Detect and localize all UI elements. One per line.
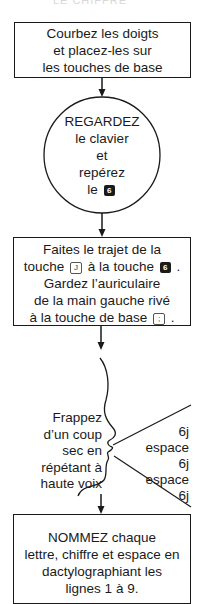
step-text-line: d’un coup bbox=[20, 427, 102, 444]
step-text-fragment: le bbox=[87, 182, 98, 197]
step-text-line: Faites le trajet de la bbox=[14, 241, 190, 258]
step-text-fragment: touche bbox=[24, 259, 65, 274]
step-text-line: Gardez l’auriculaire bbox=[14, 275, 190, 292]
step-text-line: dactylographiant les bbox=[14, 563, 190, 580]
step-text-line: touche J à la touche 6 . bbox=[14, 258, 190, 275]
step-text-line: REGARDEZ bbox=[44, 113, 160, 130]
step-text-line: les touches de base bbox=[15, 59, 190, 76]
step-text-fragment: . bbox=[171, 310, 175, 325]
step-text-line: et bbox=[44, 147, 160, 164]
step-text-line: lignes 1 à 9. bbox=[14, 580, 190, 597]
sequence-item: espace bbox=[120, 440, 189, 456]
sequence-item: 6j bbox=[120, 456, 189, 472]
key-semicolon-icon: ; bbox=[153, 313, 165, 325]
key-6-icon: 6 bbox=[160, 262, 171, 273]
spoken-sequence: 6j espace 6j espace 6j bbox=[120, 424, 189, 504]
key-j-icon: J bbox=[70, 262, 82, 274]
sequence-item: 6j bbox=[120, 488, 189, 504]
step-text-fragment: . bbox=[176, 259, 180, 274]
step-text-line: à la touche de base ; . bbox=[14, 309, 190, 326]
step-text-line: repérez bbox=[44, 164, 160, 181]
step-text-line: et placez-les sur bbox=[15, 42, 190, 59]
sequence-item: 6j bbox=[120, 424, 189, 440]
step-text-line: NOMMEZ chaque bbox=[14, 529, 190, 546]
step-text-fragment: à la touche de base bbox=[29, 310, 147, 325]
step-text-line: Frappez bbox=[20, 410, 102, 427]
step-curve-fingers-box: Courbez les doigts et placez-les sur les… bbox=[14, 22, 191, 78]
step-look-keyboard-circle: REGARDEZ le clavier et repérez le 6 bbox=[44, 97, 160, 213]
step-text-line: le clavier bbox=[44, 130, 160, 147]
step-text-line: lettre, chiffre et espace en bbox=[14, 546, 190, 563]
step-text-line: le 6 bbox=[44, 181, 160, 198]
step-speak-instructions: Frappez d’un coup sec en répétant à haut… bbox=[20, 410, 102, 493]
step-text-line: Courbez les doigts bbox=[15, 25, 190, 42]
step-reach-key-box: Faites le trajet de la touche J à la tou… bbox=[13, 237, 191, 326]
step-name-keys-box: NOMMEZ chaque lettre, chiffre et espace … bbox=[13, 514, 191, 604]
step-text-fragment: à la touche bbox=[88, 259, 154, 274]
step-text-line: sec en bbox=[20, 443, 102, 460]
key-6-icon: 6 bbox=[104, 185, 115, 196]
sequence-item: espace bbox=[120, 472, 189, 488]
step-text-line: répétant à bbox=[20, 460, 102, 477]
step-text-line: haute voix bbox=[20, 476, 102, 493]
step-text-line: de la main gauche rivé bbox=[14, 292, 190, 309]
